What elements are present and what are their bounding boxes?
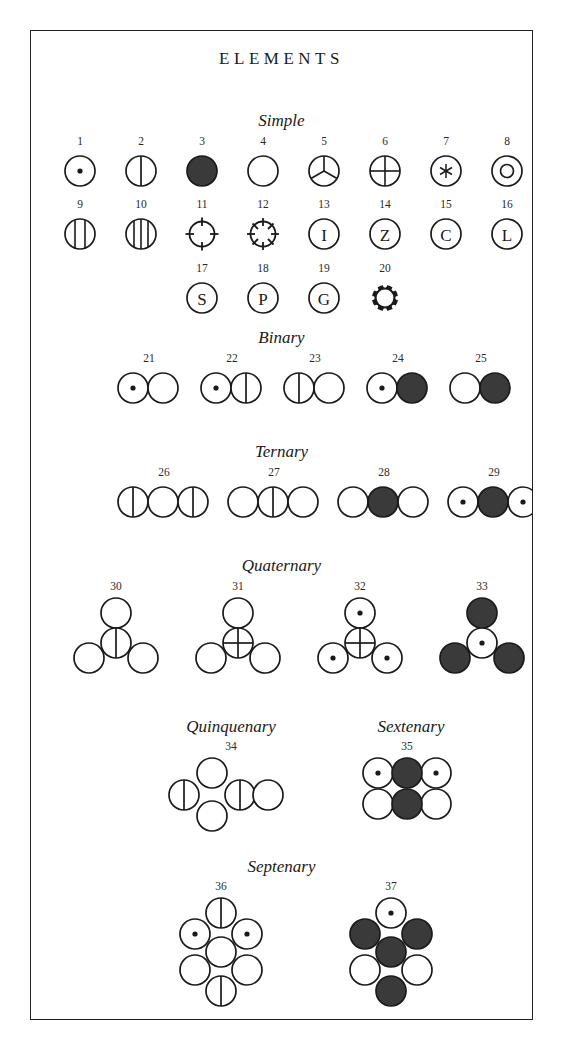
element-glyph-circle-letter-p: P <box>232 278 294 318</box>
section-title-ternary: Ternary <box>31 442 532 462</box>
element-cell-16[interactable]: 16L <box>476 199 533 254</box>
element-number: 14 <box>354 199 416 211</box>
element-cell-32[interactable]: 32 <box>305 581 415 688</box>
element-number: 30 <box>61 581 171 593</box>
element-glyph-penta-34 <box>165 756 297 834</box>
element-cell-21[interactable]: 21 <box>111 353 187 408</box>
element-number: 8 <box>476 136 533 148</box>
element-number: 34 <box>165 741 297 753</box>
element-glyph-circle-filled <box>171 151 233 191</box>
element-number: 22 <box>194 353 270 365</box>
element-cell-6[interactable]: 6 <box>354 136 416 191</box>
element-cell-26[interactable]: 26 <box>111 467 217 522</box>
element-glyph-circle-letter-z: Z <box>354 214 416 254</box>
element-number: 35 <box>341 741 473 753</box>
element-number: 6 <box>354 136 416 148</box>
element-number: 24 <box>360 353 436 365</box>
element-glyph-triple-29 <box>441 482 533 522</box>
element-cell-22[interactable]: 22 <box>194 353 270 408</box>
svg-text:S: S <box>197 289 206 308</box>
element-glyph-pair-21 <box>111 368 187 408</box>
element-cell-34[interactable]: 34 <box>165 741 297 834</box>
element-number: 36 <box>151 881 291 893</box>
element-cell-20[interactable]: 20 <box>354 263 416 318</box>
element-number: 4 <box>232 136 294 148</box>
element-glyph-circle-y-spokes <box>293 151 355 191</box>
element-number: 18 <box>232 263 294 275</box>
section-title-simple: Simple <box>31 111 532 131</box>
element-number: 3 <box>171 136 233 148</box>
element-number: 23 <box>277 353 353 365</box>
element-number: 15 <box>415 199 477 211</box>
element-glyph-pair-22 <box>194 368 270 408</box>
element-cell-8[interactable]: 8 <box>476 136 533 191</box>
element-cell-30[interactable]: 30 <box>61 581 171 688</box>
element-cell-25[interactable]: 25 <box>443 353 519 408</box>
element-number: 2 <box>110 136 172 148</box>
element-glyph-circle-letter-c: C <box>415 214 477 254</box>
element-number: 32 <box>305 581 415 593</box>
element-cell-29[interactable]: 29 <box>441 467 533 522</box>
element-glyph-quad-32 <box>305 596 415 688</box>
element-cell-2[interactable]: 2 <box>110 136 172 191</box>
element-cell-17[interactable]: 17S <box>171 263 233 318</box>
element-number: 7 <box>415 136 477 148</box>
element-number: 1 <box>49 136 111 148</box>
element-cell-4[interactable]: 4 <box>232 136 294 191</box>
element-number: 27 <box>221 467 327 479</box>
element-cell-11[interactable]: 11 <box>171 199 233 254</box>
element-glyph-circle-letter-l: L <box>476 214 533 254</box>
element-cell-18[interactable]: 18P <box>232 263 294 318</box>
elements-plate-frame: ELEMENTS Simple Binary Ternary Quaternar… <box>30 30 533 1020</box>
svg-text:Z: Z <box>380 225 390 244</box>
element-number: 11 <box>171 199 233 211</box>
element-glyph-circle-letter-i: I <box>293 214 355 254</box>
element-cell-19[interactable]: 19G <box>293 263 355 318</box>
element-cell-10[interactable]: 10 <box>110 199 172 254</box>
element-glyph-circle-vline-1 <box>110 151 172 191</box>
element-number: 5 <box>293 136 355 148</box>
element-cell-12[interactable]: 12 <box>232 199 294 254</box>
element-glyph-triple-27 <box>221 482 327 522</box>
element-number: 13 <box>293 199 355 211</box>
element-cell-7[interactable]: 7 <box>415 136 477 191</box>
section-title-sextenary: Sextenary <box>321 717 501 737</box>
element-glyph-circle-plain <box>232 151 294 191</box>
element-number: 25 <box>443 353 519 365</box>
element-glyph-pair-23 <box>277 368 353 408</box>
element-cell-36[interactable]: 36 <box>151 881 291 1008</box>
element-cell-23[interactable]: 23 <box>277 353 353 408</box>
element-glyph-pair-25 <box>443 368 519 408</box>
element-number: 17 <box>171 263 233 275</box>
element-cell-5[interactable]: 5 <box>293 136 355 191</box>
element-glyph-triple-26 <box>111 482 217 522</box>
element-glyph-circle-letter-s: S <box>171 278 233 318</box>
element-glyph-circle-vline-3 <box>110 214 172 254</box>
element-cell-13[interactable]: 13I <box>293 199 355 254</box>
section-title-septenary: Septenary <box>31 857 532 877</box>
element-number: 29 <box>441 467 533 479</box>
svg-text:P: P <box>258 289 267 308</box>
element-cell-33[interactable]: 33 <box>427 581 533 688</box>
element-cell-9[interactable]: 9 <box>49 199 111 254</box>
element-glyph-circle-dot <box>49 151 111 191</box>
element-number: 26 <box>111 467 217 479</box>
element-cell-3[interactable]: 3 <box>171 136 233 191</box>
element-glyph-circle-ring <box>476 151 533 191</box>
element-number: 19 <box>293 263 355 275</box>
element-number: 12 <box>232 199 294 211</box>
element-cell-24[interactable]: 24 <box>360 353 436 408</box>
element-cell-35[interactable]: 35 <box>341 741 473 824</box>
element-cell-31[interactable]: 31 <box>183 581 293 688</box>
svg-text:I: I <box>321 225 327 244</box>
element-number: 21 <box>111 353 187 365</box>
section-title-quinquenary: Quinquenary <box>131 717 331 737</box>
element-number: 20 <box>354 263 416 275</box>
element-cell-27[interactable]: 27 <box>221 467 327 522</box>
element-cell-14[interactable]: 14Z <box>354 199 416 254</box>
element-cell-15[interactable]: 15C <box>415 199 477 254</box>
element-cell-28[interactable]: 28 <box>331 467 437 522</box>
element-number: 9 <box>49 199 111 211</box>
element-cell-37[interactable]: 37 <box>321 881 461 1008</box>
element-cell-1[interactable]: 1 <box>49 136 111 191</box>
